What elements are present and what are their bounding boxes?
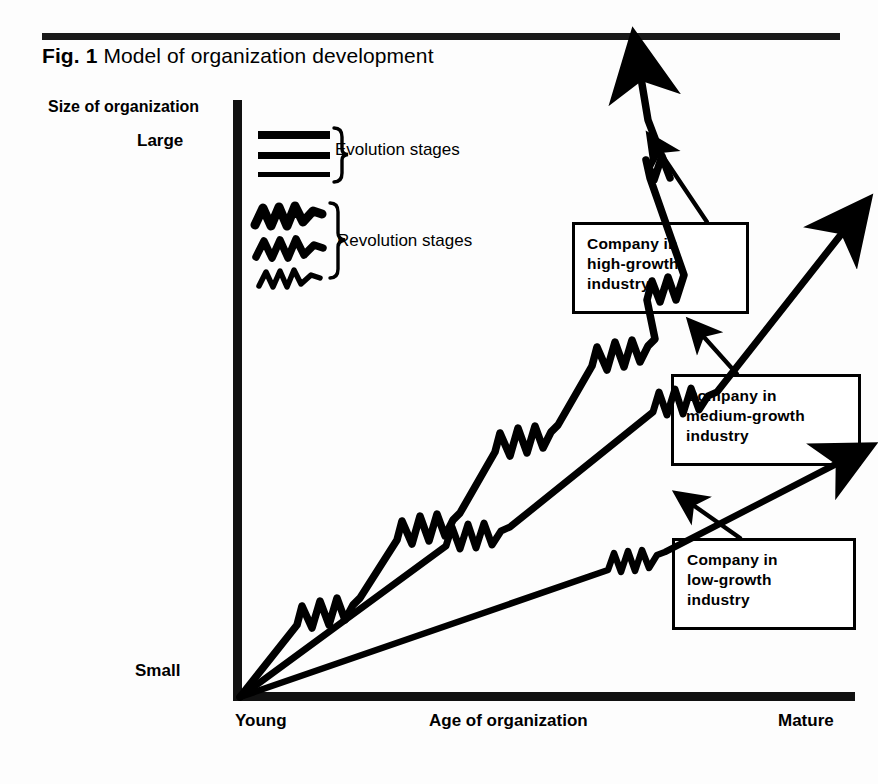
figure-drawing [0,0,878,784]
curly-brace-icon [334,128,348,182]
curly-brace-icon [330,203,345,278]
pointer-medium-growth [703,336,737,374]
series-low-growth-curve [240,463,838,697]
series-high-growth-curve [240,78,684,697]
y-axis-line [233,100,242,701]
legend-evolution-icon [258,128,348,182]
callout-pointers [660,152,740,538]
legend-revolution-icon [255,203,345,287]
pointer-high-growth [660,152,707,222]
x-axis-line [233,692,855,701]
figure-page: Fig. 1 Model of organization development… [0,0,878,784]
